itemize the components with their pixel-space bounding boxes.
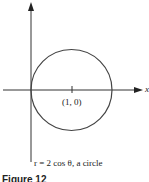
polar-circle-plot [0, 0, 149, 182]
center-label: (1, 0) [62, 97, 82, 107]
figure-number: Figure 12 [2, 174, 46, 182]
x-axis-label: x [145, 84, 149, 94]
x-axis-arrow-icon [134, 87, 143, 93]
figure-caption: r = 2 cos θ, a circle [34, 158, 103, 168]
y-axis-arrow-icon [28, 2, 34, 11]
